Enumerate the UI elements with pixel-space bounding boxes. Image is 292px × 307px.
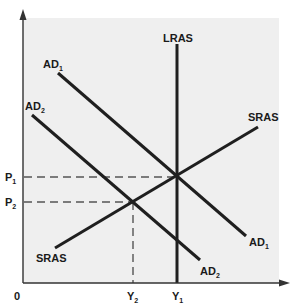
p2-tick-label: P2 (5, 196, 16, 210)
lras-label: LRAS (163, 32, 193, 44)
ad-as-diagram: LRAS SRAS SRAS AD1 AD2 AD1 AD2 P1 P2 0 Y… (0, 0, 292, 307)
origin-label: 0 (14, 290, 20, 302)
y-axis-arrow-icon (20, 9, 27, 20)
p1-tick-label: P1 (5, 171, 16, 185)
sras-label-top: SRAS (248, 111, 279, 123)
y2-tick-label: Y2 (127, 290, 138, 304)
y1-tick-label: Y1 (172, 290, 183, 304)
sras-label-bottom: SRAS (36, 252, 67, 264)
x-axis-arrow-icon (279, 280, 290, 287)
